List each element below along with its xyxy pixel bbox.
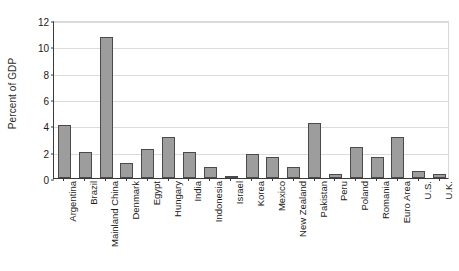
bar <box>412 171 425 178</box>
x-axis-tick-mark <box>334 178 335 181</box>
y-axis-title-text: Percent of GDP <box>8 57 19 128</box>
bar <box>371 157 384 178</box>
x-axis-tick-label: Mexico <box>276 181 287 271</box>
x-axis-tick-label: Argentina <box>67 181 78 271</box>
x-axis-tick-mark <box>314 178 315 181</box>
bar <box>391 137 404 178</box>
y-axis-title: Percent of GDP <box>2 0 24 186</box>
y-axis-tick-label: 4 <box>43 122 49 133</box>
bar <box>246 154 259 178</box>
x-axis-tick-label: Egypt <box>151 181 162 271</box>
x-axis-tick-label: India <box>192 181 203 271</box>
x-axis-tick-label: Indonesia <box>213 181 224 271</box>
bar <box>162 137 175 178</box>
x-axis-tick-label: Romania <box>380 181 391 271</box>
bars-group <box>54 22 448 178</box>
x-axis-tick-label: Korea <box>255 181 266 271</box>
bar <box>350 147 363 178</box>
y-axis-tick-label: 6 <box>43 96 49 107</box>
x-axis-tick-mark <box>168 178 169 181</box>
bar <box>120 163 133 178</box>
x-axis-tick-label: Denmark <box>130 181 141 271</box>
x-axis-tick-label: Brazil <box>88 181 99 271</box>
y-axis-tick-label: 12 <box>38 17 49 28</box>
bar <box>58 125 71 178</box>
y-axis-tick-label: 2 <box>43 148 49 159</box>
plot-area: 024681012 <box>53 21 449 179</box>
x-axis-tick-mark <box>230 178 231 181</box>
x-axis-tick-mark <box>397 178 398 181</box>
x-axis-tick-mark <box>188 178 189 181</box>
x-axis-tick-mark <box>126 178 127 181</box>
x-axis-tick-mark <box>439 178 440 181</box>
bar <box>183 152 196 178</box>
x-axis-labels-group: ArgentinaBrazilMainland ChinaDenmarkEgyp… <box>53 181 449 271</box>
x-axis-tick-mark <box>105 178 106 181</box>
x-axis-tick-mark <box>251 178 252 181</box>
x-axis-tick-mark <box>376 178 377 181</box>
x-axis-tick-label: Euro Area <box>401 181 412 271</box>
y-axis-tick-label: 8 <box>43 69 49 80</box>
x-axis-tick-label: Hungary <box>172 181 183 271</box>
x-axis-tick-mark <box>63 178 64 181</box>
x-axis-tick-mark <box>272 178 273 181</box>
bar <box>433 174 446 178</box>
x-axis-tick-label: Peru <box>338 181 349 271</box>
bar <box>308 123 321 178</box>
bar <box>287 167 300 178</box>
y-axis-tick-label: 10 <box>38 43 49 54</box>
bar <box>329 174 342 178</box>
y-axis-tick-label: 0 <box>43 175 49 186</box>
x-axis-tick-mark <box>418 178 419 181</box>
bar <box>79 152 92 178</box>
bar <box>204 167 217 178</box>
x-axis-tick-label: Mainland China <box>109 181 120 271</box>
bar <box>266 157 279 178</box>
x-axis-tick-mark <box>84 178 85 181</box>
bar <box>225 176 238 178</box>
x-axis-tick-mark <box>293 178 294 181</box>
x-axis-tick-label: U.K. <box>443 181 454 271</box>
x-axis-tick-label: Israel <box>234 181 245 271</box>
bar-chart-figure: Percent of GDP 024681012 ArgentinaBrazil… <box>0 0 459 271</box>
x-axis-tick-label: Pakistan <box>318 181 329 271</box>
x-axis-tick-mark <box>147 178 148 181</box>
x-axis-tick-mark <box>209 178 210 181</box>
x-axis-tick-label: U.S. <box>422 181 433 271</box>
x-axis-tick-label: New Zealand <box>297 181 308 271</box>
x-axis-tick-mark <box>355 178 356 181</box>
bar <box>100 37 113 178</box>
bar <box>141 149 154 178</box>
x-axis-tick-label: Poland <box>359 181 370 271</box>
